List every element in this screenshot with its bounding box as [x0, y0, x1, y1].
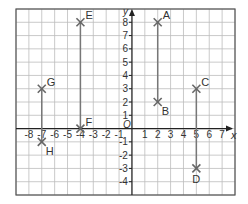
x-tick-label: -2 — [102, 129, 111, 140]
y-tick-label: 8 — [122, 17, 128, 28]
point-label: D — [192, 173, 200, 185]
y-tick-label: 3 — [122, 83, 128, 94]
point-label: G — [47, 76, 56, 88]
x-tick-label: 3 — [168, 129, 174, 140]
x-tick-label: -8 — [24, 129, 33, 140]
x-tick-label: 1 — [142, 129, 148, 140]
x-tick-label: -5 — [63, 129, 72, 140]
tick-labels: -8-7-6-5-4-3-2-1123456787654321-1-2-3-4O… — [24, 6, 237, 187]
x-tick-label: 2 — [155, 129, 161, 140]
point-A: A — [154, 9, 171, 26]
y-axis-label: y — [122, 6, 129, 17]
point-label: C — [201, 76, 209, 88]
point-H: H — [38, 138, 54, 157]
point-label: A — [163, 9, 171, 21]
y-tick-label: -2 — [119, 150, 128, 161]
point-B: B — [154, 98, 169, 117]
point-E: E — [76, 9, 92, 26]
y-tick-label: 4 — [122, 70, 128, 81]
x-tick-label: -6 — [50, 129, 59, 140]
point-D: D — [192, 164, 200, 185]
x-axis-label: x — [230, 129, 237, 141]
point-label: H — [46, 145, 54, 157]
x-tick-label: 4 — [181, 129, 187, 140]
x-tick-label: -3 — [89, 129, 98, 140]
y-axis-arrow-icon — [129, 9, 135, 16]
x-tick-label: 6 — [206, 129, 212, 140]
point-label: B — [162, 105, 169, 117]
coordinate-grid: -8-7-6-5-4-3-2-1123456787654321-1-2-3-4O… — [0, 0, 248, 204]
point-label: F — [85, 116, 92, 128]
point-C: C — [192, 76, 209, 93]
y-tick-label: -4 — [119, 176, 128, 187]
y-tick-label: 7 — [122, 30, 128, 41]
point-G: G — [38, 76, 56, 93]
origin-label: O — [123, 119, 131, 130]
y-tick-label: -3 — [119, 163, 128, 174]
y-tick-label: 5 — [122, 57, 128, 68]
y-tick-label: 2 — [122, 97, 128, 108]
x-tick-label: -4 — [76, 129, 85, 140]
point-label: E — [85, 9, 92, 21]
y-tick-label: -1 — [119, 136, 128, 147]
x-tick-label: 7 — [219, 129, 225, 140]
y-tick-label: 6 — [122, 43, 128, 54]
